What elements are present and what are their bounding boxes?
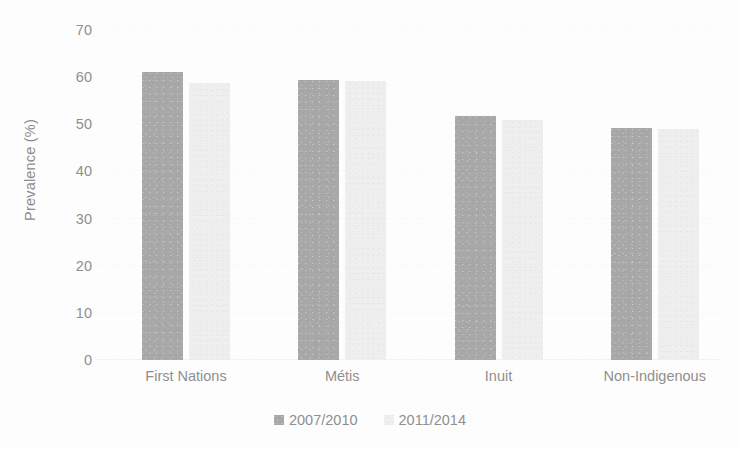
legend-label: 2007/2010 bbox=[289, 412, 358, 428]
bar[interactable] bbox=[455, 116, 496, 360]
bar-grain-texture bbox=[611, 128, 652, 360]
bar[interactable] bbox=[502, 120, 543, 360]
bar-group bbox=[452, 30, 546, 360]
bar-grain-texture bbox=[502, 120, 543, 360]
bar-group bbox=[295, 30, 389, 360]
legend-swatch bbox=[274, 415, 284, 425]
plot-area bbox=[95, 30, 720, 360]
legend-swatch-grain bbox=[384, 415, 394, 425]
legend-swatch bbox=[384, 415, 394, 425]
bar-grain-texture bbox=[298, 80, 339, 361]
bar-grain-texture bbox=[189, 83, 230, 360]
x-axis-tick-label: First Nations bbox=[145, 368, 226, 384]
y-axis-tick-label: 0 bbox=[52, 352, 92, 368]
bar-grain-texture bbox=[345, 81, 386, 360]
x-axis-tick-label: Non-Indigenous bbox=[604, 368, 706, 384]
bar-chart: Prevalence (%) 706050403020100 First Nat… bbox=[0, 0, 740, 449]
bar[interactable] bbox=[611, 128, 652, 360]
y-axis-tick-label: 40 bbox=[52, 163, 92, 179]
legend-item[interactable]: 2011/2014 bbox=[384, 412, 466, 428]
bar[interactable] bbox=[142, 72, 183, 360]
bar-group bbox=[139, 30, 233, 360]
chart-legend: 2007/20102011/2014 bbox=[0, 412, 740, 428]
x-axis-tick-label: Inuit bbox=[485, 368, 512, 384]
bar[interactable] bbox=[298, 80, 339, 361]
bar[interactable] bbox=[189, 83, 230, 360]
y-axis-tick-label: 70 bbox=[52, 22, 92, 38]
bar-grain-texture bbox=[142, 72, 183, 360]
bar-group bbox=[608, 30, 702, 360]
y-axis-tick-label: 10 bbox=[52, 305, 92, 321]
bar[interactable] bbox=[345, 81, 386, 360]
y-axis-title: Prevalence (%) bbox=[22, 20, 44, 320]
y-axis-tick-label: 30 bbox=[52, 211, 92, 227]
legend-item[interactable]: 2007/2010 bbox=[274, 412, 358, 428]
y-axis-tick-label: 50 bbox=[52, 116, 92, 132]
bar[interactable] bbox=[658, 129, 699, 360]
x-axis-tick-label: Métis bbox=[325, 368, 360, 384]
legend-swatch-grain bbox=[274, 415, 284, 425]
legend-label: 2011/2014 bbox=[399, 412, 466, 428]
y-axis-tick-label: 60 bbox=[52, 69, 92, 85]
y-axis-tick-label: 20 bbox=[52, 258, 92, 274]
bar-grain-texture bbox=[658, 129, 699, 360]
bar-grain-texture bbox=[455, 116, 496, 360]
